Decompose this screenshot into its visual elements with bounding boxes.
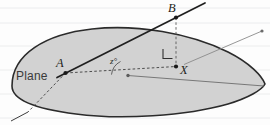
point-label-B: B (168, 1, 176, 15)
point-label-X: X (179, 63, 189, 77)
point-dot-X (174, 64, 178, 68)
angle-label-z: z° (109, 56, 118, 66)
point-dot-B (174, 15, 178, 19)
point-dot-upper-right-endpoint (260, 29, 263, 32)
plane-label: Plane (16, 69, 48, 83)
point-label-A: A (55, 56, 64, 70)
figure-canvas: A B X z° Plane (0, 0, 270, 125)
geometry-figure: A B X z° Plane (0, 0, 270, 125)
point-dot-vertex (126, 74, 129, 77)
point-dot-A (63, 71, 67, 75)
plane-shape (12, 28, 265, 117)
solid-tail-lower-left (11, 112, 28, 121)
